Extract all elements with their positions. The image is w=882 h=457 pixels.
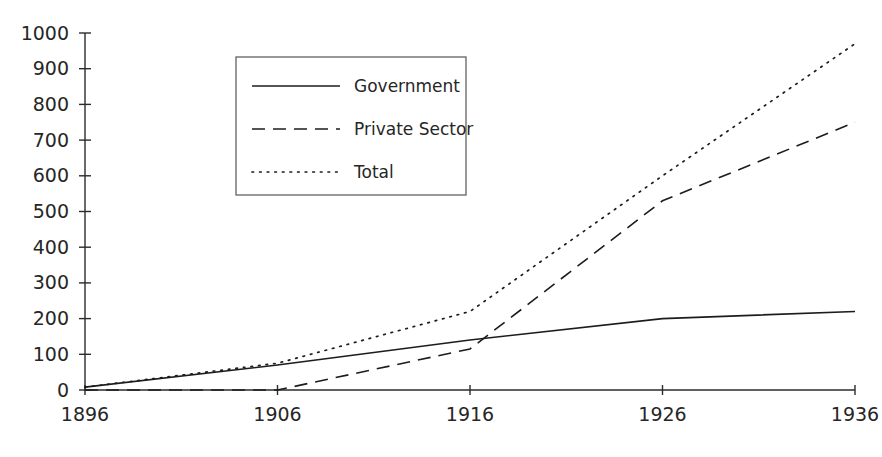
series-line-private-sector xyxy=(85,122,855,390)
y-tick-label: 900 xyxy=(33,57,69,79)
y-tick-label: 1000 xyxy=(21,22,69,44)
legend-label: Total xyxy=(353,162,394,182)
y-tick-label: 600 xyxy=(33,164,69,186)
chart-canvas: 0100200300400500600700800900100018961906… xyxy=(0,0,882,457)
series-line-total xyxy=(85,44,855,387)
y-tick-label: 500 xyxy=(33,200,69,222)
y-tick-label: 100 xyxy=(33,343,69,365)
x-tick-label: 1896 xyxy=(61,403,109,425)
y-tick-label: 400 xyxy=(33,236,69,258)
legend: GovernmentPrivate SectorTotal xyxy=(236,57,473,195)
line-chart: 0100200300400500600700800900100018961906… xyxy=(0,0,882,457)
y-tick-label: 700 xyxy=(33,129,69,151)
y-tick-label: 200 xyxy=(33,307,69,329)
legend-label: Government xyxy=(354,76,460,96)
y-tick-label: 300 xyxy=(33,271,69,293)
x-tick-label: 1926 xyxy=(638,403,686,425)
x-tick-label: 1906 xyxy=(253,403,301,425)
y-tick-label: 0 xyxy=(57,379,69,401)
y-tick-label: 800 xyxy=(33,93,69,115)
x-tick-label: 1916 xyxy=(446,403,494,425)
legend-label: Private Sector xyxy=(354,119,473,139)
x-tick-label: 1936 xyxy=(831,403,879,425)
